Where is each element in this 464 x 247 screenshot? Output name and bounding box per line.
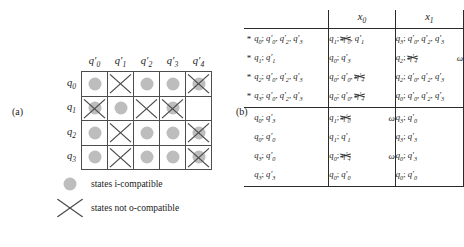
rule-segment	[395, 184, 463, 187]
row-next-state-x1: q2; q′0, q′2, q′3	[395, 67, 463, 86]
flow-table-row[interactable]: q3; q′0q0; q′4ωq0; q′3	[244, 146, 464, 165]
legend: states i-compatiblestates not o-compatib…	[55, 172, 230, 220]
row-next-state-x1: q3; q′0, q′2, q′3	[395, 29, 463, 49]
grid-row-header-1: q1	[55, 96, 82, 121]
flow-table-row[interactable]: *q1; q′1q0; q′3q2; q′4ω	[244, 48, 464, 67]
flow-table-row[interactable]: q3; q′3q0; q′0q0; q′0	[244, 165, 464, 184]
flow-table-row[interactable]: *q2; q′0, q′2, q′3q0; q′0, q′4q2; q′0, q…	[244, 67, 464, 86]
compatibility-grid: q′0q′1q′2q′3q′4q0q1q2q3	[55, 47, 212, 170]
header-state-spacer	[254, 10, 329, 26]
row-star-marker	[244, 127, 254, 146]
grid-cell-q3-q'4[interactable]	[186, 145, 212, 170]
row-next-state-x0: q0; q′3	[329, 48, 395, 67]
row-next-state-x0: q0; q′0	[329, 165, 395, 184]
struck-state: q′4	[341, 150, 350, 162]
compatibility-grid-table: q′0q′1q′2q′3q′4q0q1q2q3	[55, 47, 212, 170]
grid-cell-q2-q'1[interactable]	[108, 121, 134, 146]
row-present-state: q1; q′1	[254, 48, 329, 67]
struck-state: q′0	[341, 112, 350, 124]
grid-cell-q1-q'1[interactable]	[108, 96, 134, 121]
i-compatible-dot-icon	[166, 126, 179, 139]
grid-header-row: q′0q′1q′2q′3q′4	[55, 47, 212, 72]
grid-cell-q0-q'3[interactable]	[160, 72, 186, 97]
row-next-state-x0: q1; q′1	[329, 127, 395, 146]
grid-cell-q2-q'0[interactable]	[82, 121, 108, 146]
state-text: q0; q′3	[329, 52, 350, 62]
row-star-marker: *	[244, 86, 254, 105]
legend-item-label: states not o-compatible	[91, 203, 179, 213]
row-next-state-x0: q1; q′0, q′1	[329, 29, 395, 49]
header-star-spacer	[244, 10, 254, 26]
legend-item-0: states i-compatible	[55, 172, 230, 196]
grid-corner-cell	[55, 47, 82, 72]
row-present-state: q0; q′3	[254, 108, 329, 128]
grid-cell-q0-q'4[interactable]	[186, 72, 212, 97]
header-input-x1: x1	[395, 10, 463, 26]
flow-table-row[interactable]: *q3; q′0, q′2, q′3q0; q′0, q′4q0; q′0, q…	[244, 86, 464, 105]
not-o-compatible-x-icon	[55, 197, 85, 219]
i-compatible-dot-icon	[166, 151, 179, 164]
row-present-state: q2; q′0, q′2, q′3	[254, 67, 329, 86]
omega-marker: ω	[384, 151, 394, 161]
grid-cell-q1-q'2[interactable]	[134, 96, 160, 121]
flow-table-row[interactable]: *q0; q′0, q′2, q′3q1; q′0, q′1q3; q′0, q…	[244, 29, 464, 49]
flow-table-row[interactable]: q0; q′0q1; q′1q3; q′3	[244, 127, 464, 146]
not-o-compatible-x-icon	[160, 97, 185, 121]
state-text: q0; q′3	[396, 150, 417, 160]
grid-cell-q1-q'4[interactable]	[186, 96, 212, 121]
grid-cell-q0-q'0[interactable]	[82, 72, 108, 97]
rule-segment	[244, 184, 254, 187]
grid-cell-q1-q'0[interactable]	[82, 96, 108, 121]
not-o-compatible-x-icon	[108, 72, 133, 96]
struck-state: q′4	[355, 71, 364, 83]
grid-row-header-3: q3	[55, 145, 82, 170]
row-next-state-x0: q0; q′4ω	[329, 146, 395, 165]
grid-column-header-4: q′4	[186, 47, 212, 72]
row-next-state-x0: q0; q′0, q′4	[329, 86, 395, 105]
grid-column-header-0: q′0	[82, 47, 108, 72]
row-present-state: q3; q′3	[254, 165, 329, 184]
row-star-marker	[244, 165, 254, 184]
i-compatible-dot-icon	[64, 178, 77, 191]
row-star-marker: *	[244, 29, 254, 49]
rule-segment	[254, 184, 329, 187]
grid-row: q2	[55, 121, 212, 146]
grid-cell-q1-q'3[interactable]	[160, 96, 186, 121]
grid-cell-q2-q'3[interactable]	[160, 121, 186, 146]
grid-row-header-0: q0	[55, 72, 82, 97]
grid-cell-q0-q'1[interactable]	[108, 72, 134, 97]
row-next-state-x1: q3; q′3	[395, 127, 463, 146]
not-o-compatible-x-icon	[108, 146, 133, 170]
row-next-state-x1: q2; q′4ω	[395, 48, 463, 67]
grid-cell-q3-q'0[interactable]	[82, 145, 108, 170]
state-text: q3; q′0, q′2, q′3	[396, 33, 444, 43]
grid-row: q1	[55, 96, 212, 121]
state-text: q3; q′3	[396, 131, 417, 141]
i-compatible-dot-icon	[166, 77, 179, 90]
grid-cell-q3-q'3[interactable]	[160, 145, 186, 170]
state-text: q0; q′0, q′2, q′3	[396, 90, 444, 100]
grid-cell-q0-q'2[interactable]	[134, 72, 160, 97]
header-input-x0: x0	[329, 10, 395, 26]
state-text: q1; q′1	[329, 131, 350, 141]
row-present-state: q0; q′0	[254, 127, 329, 146]
omega-marker: ω	[384, 113, 394, 123]
i-compatible-dot-icon	[88, 77, 101, 90]
i-compatible-dot-icon	[88, 151, 101, 164]
grid-cell-q2-q'4[interactable]	[186, 121, 212, 146]
grid-cell-q3-q'2[interactable]	[134, 145, 160, 170]
row-present-state: q3; q′0, q′2, q′3	[254, 86, 329, 105]
struck-state: q′4	[355, 90, 364, 102]
flow-table-row[interactable]: q0; q′3q1; q′0ωq3; q′0	[244, 108, 464, 128]
panel-a-label: (a)	[12, 106, 23, 117]
grid-cell-q3-q'1[interactable]	[108, 145, 134, 170]
legend-x-icon	[55, 197, 85, 219]
not-o-compatible-x-icon	[186, 146, 211, 170]
legend-dot-icon	[55, 173, 85, 195]
grid-row: q0	[55, 72, 212, 97]
state-text: q0; q′0	[396, 169, 417, 179]
row-star-marker: *	[244, 67, 254, 86]
i-compatible-dot-icon	[140, 77, 153, 90]
row-next-state-x1: q0; q′0	[395, 165, 463, 184]
grid-cell-q2-q'2[interactable]	[134, 121, 160, 146]
